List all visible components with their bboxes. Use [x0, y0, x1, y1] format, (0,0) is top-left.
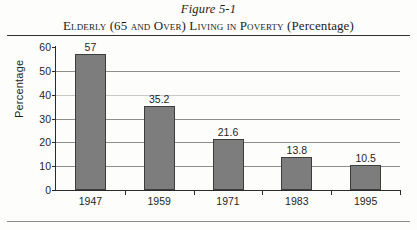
bar-value-label: 13.8: [287, 144, 307, 156]
x-axis-tick: [331, 190, 332, 195]
x-axis-tick: [400, 190, 401, 195]
y-axis-tick: [52, 166, 56, 167]
y-axis-tick: [52, 95, 56, 96]
gridline: [56, 71, 400, 72]
x-axis-tick-label: 1971: [216, 195, 239, 207]
y-axis-tick-label: 50: [39, 65, 51, 77]
y-axis-tick-label: 60: [39, 41, 51, 53]
x-axis-line: [55, 190, 400, 191]
x-axis-tick: [262, 190, 263, 195]
y-axis-tick: [52, 71, 56, 72]
x-axis-tick: [194, 190, 195, 195]
y-axis-tick-label: 20: [39, 136, 51, 148]
bar: 10.5: [350, 165, 381, 190]
y-axis-tick: [52, 47, 56, 48]
figure-container: Figure 5-1 Elderly (65 and Over) Living …: [0, 0, 417, 230]
figure-caption-smallcaps: Elderly (65 and Over) Living in Poverty: [63, 18, 284, 33]
x-axis-tick-label: 1995: [354, 195, 377, 207]
y-axis-tick-label: 30: [39, 113, 51, 125]
figure-number: Figure 5-1: [0, 2, 417, 17]
y-axis-tick: [52, 190, 56, 191]
bar: 21.6: [213, 139, 244, 190]
y-axis-title: Percentage: [13, 60, 25, 118]
x-axis-tick-label: 1959: [148, 195, 171, 207]
y-axis-tick-label: 40: [39, 89, 51, 101]
bar-value-label: 57: [85, 41, 97, 53]
figure-caption: Elderly (65 and Over) Living in Poverty …: [0, 17, 417, 34]
figure-title-block: Figure 5-1 Elderly (65 and Over) Living …: [0, 2, 417, 34]
y-axis-tick-label: 10: [39, 160, 51, 172]
y-axis-tick: [52, 119, 56, 120]
x-axis-tick: [125, 190, 126, 195]
gridline: [56, 95, 400, 96]
y-axis-tick-label: 0: [45, 184, 51, 196]
bar: 35.2: [144, 106, 175, 190]
bar-value-label: 21.6: [218, 126, 238, 138]
gridline: [56, 119, 400, 120]
bar: 57: [75, 54, 106, 190]
rule-below-chart: [7, 221, 410, 222]
bar: 13.8: [281, 157, 312, 190]
y-axis-tick: [52, 142, 56, 143]
figure-caption-normal: (Percentage): [287, 18, 354, 33]
bar-value-label: 35.2: [149, 93, 169, 105]
x-axis-tick-label: 1983: [285, 195, 308, 207]
bar-value-label: 10.5: [355, 152, 375, 164]
x-axis-tick-label: 1947: [79, 195, 102, 207]
plot-area: 010203040506057194735.2195921.6197113.81…: [56, 47, 400, 190]
rule-above-chart: [7, 35, 410, 36]
